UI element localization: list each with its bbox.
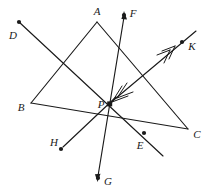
label-p: P	[98, 99, 105, 110]
dot-g	[96, 176, 100, 180]
dot-f	[122, 13, 126, 17]
dot-h	[59, 147, 63, 151]
segment-d-to-e	[19, 22, 163, 156]
label-c: C	[193, 129, 200, 140]
label-d: D	[9, 30, 17, 41]
label-b: B	[18, 102, 25, 113]
dot-e	[142, 131, 146, 135]
double-arrowhead-toward-k	[157, 46, 175, 63]
label-a: A	[94, 6, 101, 17]
point-dots	[17, 13, 184, 180]
label-e: E	[137, 140, 144, 151]
geometry-figure: A B C D E F G H K P	[0, 0, 209, 196]
label-g: G	[104, 176, 112, 187]
label-k: K	[188, 41, 195, 52]
triangle-abc	[31, 22, 188, 129]
dot-p	[107, 101, 112, 106]
dot-d	[17, 20, 21, 24]
label-h: H	[50, 137, 58, 148]
triangle-side-ab	[31, 22, 97, 103]
dot-k	[180, 40, 184, 44]
line-d-e	[19, 22, 163, 156]
label-f: F	[130, 8, 137, 19]
